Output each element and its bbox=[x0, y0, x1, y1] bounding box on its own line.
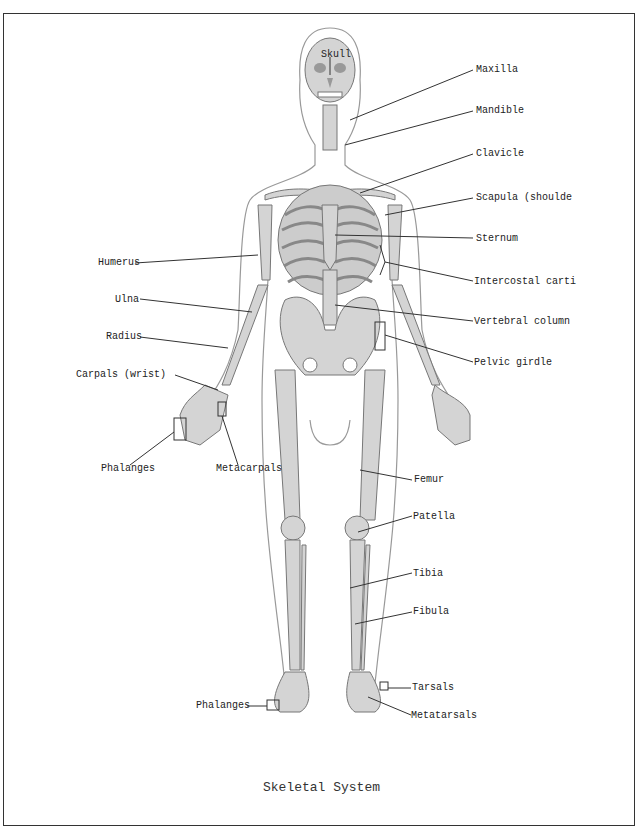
label-metacarpals: Metacarpals bbox=[216, 463, 282, 475]
label-tibia: Tibia bbox=[413, 568, 443, 580]
label-pelvic-girdle: Pelvic girdle bbox=[474, 357, 552, 369]
label-fibula: Fibula bbox=[413, 606, 449, 618]
label-humerus: Humerus bbox=[98, 257, 140, 269]
label-maxilla: Maxilla bbox=[476, 64, 518, 76]
label-patella: Patella bbox=[413, 511, 455, 523]
label-skull: Skull bbox=[321, 49, 351, 61]
label-carpals: Carpals (wrist) bbox=[76, 369, 166, 381]
label-sternum: Sternum bbox=[476, 233, 518, 245]
label-vertebral-column: Vertebral column bbox=[474, 316, 570, 328]
skeleton-illustration bbox=[0, 0, 643, 836]
label-mandible: Mandible bbox=[476, 105, 524, 117]
label-ulna: Ulna bbox=[115, 294, 139, 306]
label-phalanges-hand: Phalanges bbox=[101, 463, 155, 475]
label-intercostal-cartilage: Intercostal carti bbox=[474, 276, 576, 288]
figure-title: Skeletal System bbox=[0, 780, 643, 795]
label-femur: Femur bbox=[414, 474, 444, 486]
label-radius: Radius bbox=[106, 331, 142, 343]
label-clavicle: Clavicle bbox=[476, 148, 524, 160]
label-scapula: Scapula (shoulde bbox=[476, 192, 572, 204]
label-metatarsals: Metatarsals bbox=[411, 710, 477, 722]
label-tarsals: Tarsals bbox=[412, 682, 454, 694]
label-phalanges-foot: Phalanges bbox=[196, 700, 250, 712]
